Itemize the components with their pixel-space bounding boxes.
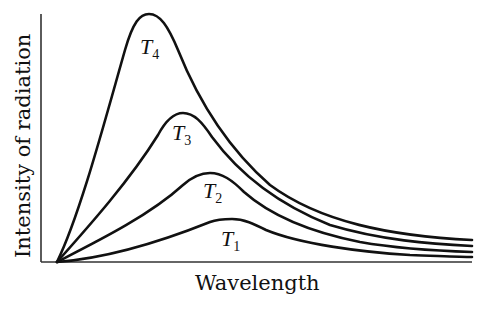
x-axis-title: Wavelength bbox=[195, 271, 320, 295]
curve-t4 bbox=[57, 14, 472, 262]
label-t4: T4 bbox=[140, 34, 159, 62]
blackbody-diagram: T4 T3 T2 T1 Intensity of radiation Wavel… bbox=[0, 0, 488, 311]
curve-t2 bbox=[57, 173, 472, 262]
label-t2: T2 bbox=[203, 178, 222, 206]
label-t3: T3 bbox=[172, 120, 191, 148]
plot-area: T4 T3 T2 T1 Intensity of radiation Wavel… bbox=[0, 0, 488, 311]
label-t1: T1 bbox=[221, 226, 240, 254]
curve-t3 bbox=[57, 113, 472, 262]
y-axis-title: Intensity of radiation bbox=[11, 34, 35, 258]
